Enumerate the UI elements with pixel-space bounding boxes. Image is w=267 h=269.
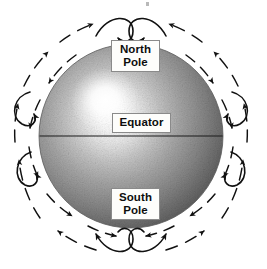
label-north-pole: North Pole	[111, 40, 160, 72]
scan-artifact-speck	[146, 2, 149, 6]
label-equator: Equator	[112, 113, 171, 133]
label-south-pole: South Pole	[111, 188, 160, 220]
